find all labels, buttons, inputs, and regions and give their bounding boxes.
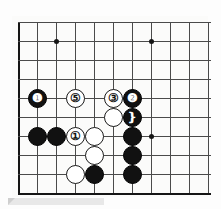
stone-5: ⑤ bbox=[66, 89, 85, 108]
stone-black-e bbox=[123, 127, 142, 146]
grid-line-vertical-9 bbox=[189, 22, 190, 193]
grid-line-horizontal-7 bbox=[18, 155, 211, 156]
stone-3: ③ bbox=[104, 89, 123, 108]
grid-line-vertical-10 bbox=[208, 22, 209, 193]
stone-black-j bbox=[123, 165, 142, 184]
stone-white-d bbox=[85, 127, 104, 146]
star-point-upper-right bbox=[149, 39, 154, 44]
grid-line-vertical-2 bbox=[56, 22, 57, 193]
stone-white-a bbox=[104, 108, 123, 127]
star-point-right bbox=[149, 134, 154, 139]
stone-black-i bbox=[85, 165, 104, 184]
grid-line-vertical-7 bbox=[151, 22, 152, 193]
stone-3-label: ③ bbox=[108, 92, 119, 104]
stone-2: ❵ bbox=[123, 108, 142, 127]
stone-1: ① bbox=[66, 127, 85, 146]
stone-black-g bbox=[123, 146, 142, 165]
grid-line-horizontal-8 bbox=[18, 174, 211, 175]
grid-line-horizontal-9 bbox=[18, 193, 211, 195]
grid-line-vertical-8 bbox=[170, 22, 171, 193]
grid-line-horizontal-3 bbox=[18, 79, 211, 80]
go-diagram-screenshot: ❶⑤③❷❵① bbox=[0, 0, 221, 209]
stone-6-label: ❶ bbox=[32, 92, 43, 104]
stone-1-label: ① bbox=[70, 130, 81, 142]
page-edge-shadow-corner bbox=[8, 198, 15, 205]
page-edge-shadow bbox=[8, 198, 104, 205]
stone-black-b bbox=[28, 127, 47, 146]
stone-white-f bbox=[85, 146, 104, 165]
stone-4-label: ❷ bbox=[127, 92, 138, 104]
grid-line-vertical-0 bbox=[18, 22, 20, 193]
stone-5-label: ⑤ bbox=[70, 92, 81, 104]
star-point-upper-left bbox=[54, 39, 59, 44]
grid-line-horizontal-1 bbox=[18, 41, 211, 42]
stone-black-c bbox=[47, 127, 66, 146]
grid-line-horizontal-2 bbox=[18, 60, 211, 61]
stone-6: ❶ bbox=[28, 89, 47, 108]
stone-white-h bbox=[66, 165, 85, 184]
grid-line-vertical-1 bbox=[37, 22, 38, 193]
stone-2-label: ❵ bbox=[127, 111, 137, 123]
grid-line-horizontal-0 bbox=[18, 22, 211, 23]
stone-4: ❷ bbox=[123, 89, 142, 108]
